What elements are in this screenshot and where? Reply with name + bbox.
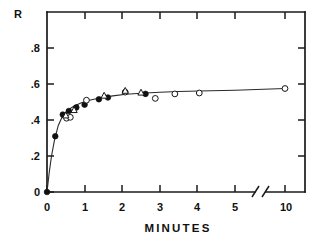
series-filled-circles <box>44 91 148 195</box>
y-tick-label-3: .6 <box>31 78 40 90</box>
chart-figure: 0 .2 .4 .6 .8 0 1 2 3 4 5 10 R MINUTES <box>0 0 320 241</box>
x-tick-label-1: 1 <box>82 201 88 213</box>
y-axis-title: R <box>14 8 22 20</box>
y-tick-label-4: .8 <box>31 42 40 54</box>
series-open-circles <box>64 86 288 122</box>
x-axis-title: MINUTES <box>144 222 211 234</box>
data-point-open-circle <box>84 97 90 103</box>
y-tick-marks-right <box>298 48 305 156</box>
y-tick-labels: 0 .2 .4 .6 .8 <box>31 42 41 198</box>
x-tick-label-6: 10 <box>280 201 292 213</box>
x-tick-labels: 0 1 2 3 4 5 10 <box>44 201 292 213</box>
data-point-open-circle <box>152 96 158 102</box>
x-tick-label-0: 0 <box>44 201 50 213</box>
x-tick-label-4: 4 <box>194 201 201 213</box>
data-point-open-circle <box>196 90 202 96</box>
x-tick-marks-top <box>85 12 285 19</box>
data-point-filled-circle <box>52 133 58 139</box>
data-point-open-circle <box>282 86 288 92</box>
x-tick-marks <box>47 185 285 192</box>
y-tick-label-2: .4 <box>31 114 41 126</box>
y-tick-marks <box>47 48 54 192</box>
series-open-triangles <box>63 87 144 118</box>
data-point-filled-circle <box>44 189 50 195</box>
data-markers-layer <box>44 86 288 195</box>
x-tick-label-5: 5 <box>232 201 238 213</box>
scatter-plot: 0 .2 .4 .6 .8 0 1 2 3 4 5 10 R MINUTES <box>0 0 320 241</box>
data-point-filled-circle <box>96 97 102 103</box>
y-tick-label-0: 0 <box>34 186 40 198</box>
x-tick-label-2: 2 <box>119 201 125 213</box>
data-point-open-circle <box>172 91 178 97</box>
y-tick-label-1: .2 <box>31 150 40 162</box>
x-tick-label-3: 3 <box>157 201 163 213</box>
